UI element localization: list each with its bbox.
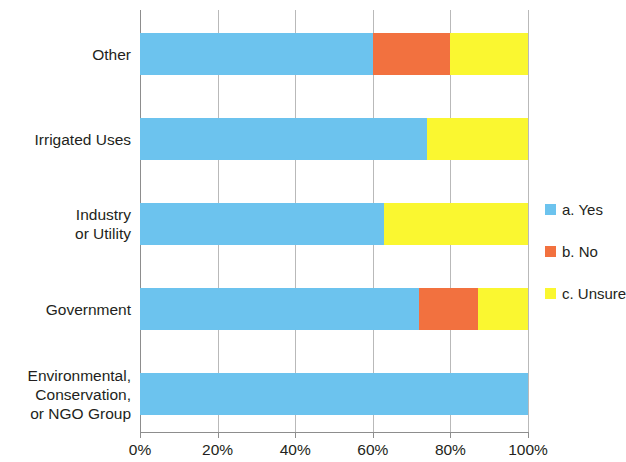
- legend-swatch-icon: [545, 246, 556, 257]
- category-label-line: Industry: [8, 205, 131, 224]
- bar-row: [140, 203, 528, 245]
- bar-row: [140, 288, 528, 330]
- tick-mark-0pct: [140, 432, 141, 438]
- x-axis-line: [140, 432, 529, 433]
- y-axis-category-labels: OtherIrrigated UsesIndustryor UtilityGov…: [0, 0, 140, 462]
- chart-legend: a. Yesb. Noc. Unsure: [545, 188, 624, 314]
- legend-item[interactable]: b. No: [545, 230, 624, 272]
- legend-swatch-icon: [545, 288, 556, 299]
- gridline-100pct: [528, 10, 529, 432]
- category-label-line: Government: [8, 300, 131, 319]
- bar-segment: [450, 33, 528, 75]
- bar-segment: [140, 288, 419, 330]
- x-tick-label: 40%: [260, 440, 330, 460]
- plot-area: [140, 10, 528, 432]
- tick-mark-60pct: [373, 432, 374, 438]
- tick-mark-100pct: [528, 432, 529, 438]
- tick-mark-20pct: [218, 432, 219, 438]
- x-axis-tick-labels: 0%20%40%60%80%100%: [0, 440, 624, 462]
- category-label-line: Other: [8, 45, 131, 64]
- bar-segment: [140, 33, 373, 75]
- bar-segment: [140, 373, 528, 415]
- category-label-line: or Utility: [8, 224, 131, 243]
- category-label-line: Irrigated Uses: [8, 130, 131, 149]
- bar-segment: [384, 203, 528, 245]
- legend-swatch-icon: [545, 204, 556, 215]
- x-tick-label: 20%: [183, 440, 253, 460]
- bar-segment: [419, 288, 477, 330]
- x-tick-label: 60%: [338, 440, 408, 460]
- x-tick-label: 80%: [415, 440, 485, 460]
- x-tick-label: 0%: [105, 440, 175, 460]
- bar-row: [140, 33, 528, 75]
- category-label-line: Conservation,: [8, 385, 131, 404]
- legend-label: c. Unsure: [562, 285, 626, 302]
- legend-item[interactable]: a. Yes: [545, 188, 624, 230]
- category-label-line: Environmental,: [8, 366, 131, 385]
- bar-segment: [373, 33, 451, 75]
- category-label: Irrigated Uses: [8, 130, 140, 149]
- category-label: Industryor Utility: [8, 205, 140, 243]
- x-tick-label: 100%: [493, 440, 563, 460]
- tick-mark-80pct: [450, 432, 451, 438]
- category-label: Government: [8, 300, 140, 319]
- bar-row: [140, 373, 528, 415]
- category-label: Other: [8, 45, 140, 64]
- bar-segment: [140, 203, 384, 245]
- bar-row: [140, 118, 528, 160]
- category-label-line: or NGO Group: [8, 404, 131, 423]
- tick-mark-40pct: [295, 432, 296, 438]
- category-label: Environmental,Conservation,or NGO Group: [8, 366, 140, 423]
- bar-segment: [140, 118, 427, 160]
- bar-segment: [478, 288, 528, 330]
- legend-label: a. Yes: [562, 201, 603, 218]
- bar-segment: [427, 118, 528, 160]
- legend-label: b. No: [562, 243, 598, 260]
- legend-item[interactable]: c. Unsure: [545, 272, 624, 314]
